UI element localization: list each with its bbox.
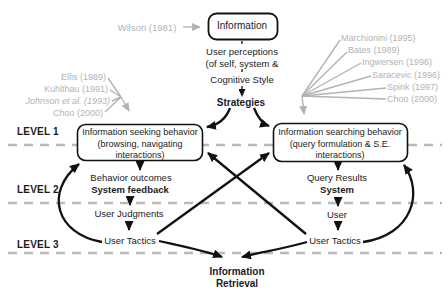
level-3-label: LEVEL 3: [17, 239, 59, 250]
left-tactics-to-retrieval-arrow: [159, 241, 222, 257]
seeking-box-line1: Information seeking behavior: [82, 127, 198, 139]
searching-box-line3: interactions): [278, 150, 402, 162]
citation-ellis: Ellis (1989): [61, 72, 106, 83]
citation-choo-right: Choo (2000): [387, 94, 437, 105]
behavior-outcomes-label: Behavior outcomes: [90, 172, 171, 183]
user-label: User: [327, 209, 347, 220]
level-2-label: LEVEL 2: [17, 184, 59, 195]
strategies-to-searching-arrow: [254, 108, 269, 126]
right-fan-line-1: [302, 40, 340, 96]
strategies-label: Strategies: [217, 97, 265, 108]
query-results-label: Query Results: [307, 172, 367, 183]
right-tactics-feedback-loop-arrow: [363, 165, 413, 242]
seeking-box-label: Information seeking behavior (browsing, …: [82, 127, 198, 162]
citation-ingwersen: Ingwersen (1996): [362, 57, 432, 68]
citation-saracevic: Saracevic (1996): [372, 70, 440, 81]
citation-marchionini: Marchionini (1995): [341, 33, 416, 44]
left-tactics-to-searching-arrow: [157, 153, 269, 234]
citation-wilson: Wilson (1981): [118, 22, 177, 33]
citation-spink: Spink (1997): [387, 82, 438, 93]
right-tactics-to-seeking-arrow: [208, 153, 306, 234]
right-fan-line-6: [302, 96, 386, 99]
citation-kuhlthau: Kuhlthau (1991): [44, 84, 108, 95]
cognitive-style-label: Cognitive Style: [210, 74, 273, 85]
level-1-label: LEVEL 1: [17, 126, 59, 137]
figure-canvas: Wilson (1981) Information User perceptio…: [0, 0, 448, 302]
system-label: System: [320, 184, 354, 195]
information-retrieval-label: Information Retrieval: [210, 266, 265, 290]
user-perceptions-line2: (of self, system &: [206, 58, 279, 69]
citation-choo-left: Choo (2000): [53, 108, 103, 119]
seeking-box-line2: (browsing, navigating: [82, 139, 198, 151]
searching-box-label: Information searching behavior (query fo…: [278, 127, 402, 162]
user-tactics-left-label: User Tactics: [104, 235, 156, 246]
information-retrieval-line1: Information: [210, 266, 265, 278]
left-fan-line-1: [108, 78, 121, 97]
citation-bates: Bates (1989): [348, 45, 400, 56]
system-feedback-label: System feedback: [91, 184, 169, 195]
searching-box-line1: Information searching behavior: [278, 127, 402, 139]
left-fan-arrow: [121, 97, 129, 111]
right-fan-arrow: [302, 96, 304, 114]
information-retrieval-line2: Retrieval: [210, 278, 265, 290]
searching-box-line2: (query formulation & S.E.: [278, 139, 402, 151]
information-box-label: Information: [217, 20, 267, 31]
citation-johnson: Johnson et al. (1993): [25, 96, 110, 107]
user-judgments-label: User Judgments: [94, 208, 163, 219]
user-perceptions-line1: User perceptions: [206, 46, 278, 57]
user-tactics-right-label: User Tactics: [309, 235, 361, 246]
right-tactics-to-retrieval-arrow: [242, 242, 307, 257]
strategies-to-seeking-arrow: [207, 108, 230, 127]
seeking-box-line3: interactions): [82, 150, 198, 162]
